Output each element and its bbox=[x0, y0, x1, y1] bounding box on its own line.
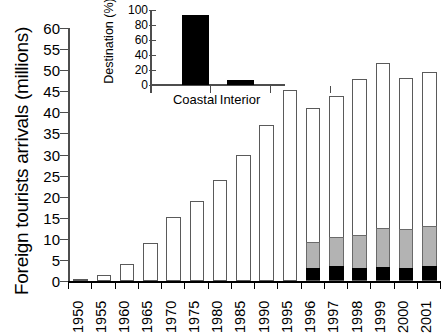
y-tick-label: 60 bbox=[43, 20, 60, 37]
x-tick-label: 2001 bbox=[418, 301, 434, 333]
y-tick bbox=[60, 218, 68, 219]
y-tick bbox=[60, 49, 68, 50]
bar-segment-bottom bbox=[329, 266, 343, 280]
y-tick-label: 55 bbox=[43, 41, 60, 58]
x-tick-label: 1950 bbox=[70, 301, 86, 333]
x-tick-label: 1995 bbox=[279, 301, 295, 333]
inset-x-tick-label: Interior bbox=[220, 92, 260, 107]
bar-2001 bbox=[422, 72, 436, 281]
bar-1996 bbox=[306, 108, 320, 281]
inset-chart: Destination (%) 020406080100 CoastalInte… bbox=[104, 6, 286, 98]
y-tick bbox=[60, 155, 68, 156]
y-tick bbox=[60, 197, 68, 198]
inset-y-axis-tick-labels: 020406080100 bbox=[104, 10, 148, 85]
inset-x-tick-label: Coastal bbox=[173, 92, 217, 107]
y-tick bbox=[60, 133, 68, 134]
inset-y-tick-label: 40 bbox=[135, 48, 148, 62]
inset-y-tick-label: 0 bbox=[141, 78, 148, 92]
inset-bar-interior bbox=[227, 80, 254, 85]
inset-y-tick-label: 80 bbox=[135, 18, 148, 32]
bar-segment-bottom bbox=[399, 268, 413, 280]
y-tick-label: 30 bbox=[43, 146, 60, 163]
inset-y-tick-label: 20 bbox=[135, 63, 148, 77]
x-tick-label: 1975 bbox=[186, 301, 202, 333]
y-axis-tick-labels: 051015202530354045505560 bbox=[8, 28, 60, 282]
y-tick-label: 5 bbox=[52, 251, 60, 268]
figure-root: Foreign tourists arrivals (millions) 051… bbox=[0, 0, 448, 335]
x-tick-label: 1998 bbox=[349, 301, 365, 333]
bar-1970 bbox=[166, 217, 180, 282]
bar-1998 bbox=[352, 79, 366, 281]
inset-x-axis-tick-labels: CoastalInterior bbox=[150, 92, 285, 110]
x-tick-label: 1970 bbox=[163, 301, 179, 333]
y-tick bbox=[60, 176, 68, 177]
x-tick-label: 1996 bbox=[302, 301, 318, 333]
x-tick-label: 1985 bbox=[232, 301, 248, 333]
y-tick bbox=[60, 281, 68, 282]
x-tick-label: 1965 bbox=[139, 301, 155, 333]
y-tick-label: 50 bbox=[43, 62, 60, 79]
bar-1990 bbox=[259, 125, 273, 281]
inset-x-tick bbox=[330, 86, 332, 93]
y-tick-label: 0 bbox=[52, 273, 60, 290]
y-tick-label: 45 bbox=[43, 83, 60, 100]
bar-1985 bbox=[236, 155, 250, 282]
y-tick-label: 25 bbox=[43, 167, 60, 184]
bar-segment-bottom bbox=[352, 268, 366, 280]
y-tick bbox=[60, 239, 68, 240]
bar-1965 bbox=[143, 243, 157, 281]
y-tick-label: 10 bbox=[43, 230, 60, 247]
y-tick-label: 15 bbox=[43, 209, 60, 226]
y-tick bbox=[60, 28, 68, 29]
x-tick-label: 2000 bbox=[395, 301, 411, 333]
x-tick-label: 1990 bbox=[256, 301, 272, 333]
bar-1999 bbox=[376, 63, 390, 281]
bar-1950 bbox=[73, 279, 87, 281]
inset-bar-coastal bbox=[182, 15, 209, 85]
bar-1980 bbox=[213, 180, 227, 281]
x-tick-label: 1980 bbox=[209, 301, 225, 333]
bar-1995 bbox=[283, 90, 297, 281]
y-tick-label: 20 bbox=[43, 188, 60, 205]
y-tick bbox=[60, 91, 68, 92]
x-tick-label: 1997 bbox=[325, 301, 341, 333]
bar-1975 bbox=[190, 201, 204, 281]
inset-bars bbox=[150, 10, 285, 85]
y-tick bbox=[60, 260, 68, 261]
x-tick-label: 1999 bbox=[372, 301, 388, 333]
inset-y-tick-label: 100 bbox=[128, 3, 148, 17]
x-tick-label: 1955 bbox=[93, 301, 109, 333]
bar-1997 bbox=[329, 96, 343, 281]
inset-y-tick-label: 60 bbox=[135, 33, 148, 47]
bar-2000 bbox=[399, 78, 413, 281]
y-tick bbox=[60, 112, 68, 113]
bar-segment-bottom bbox=[306, 268, 320, 280]
x-axis-tick-labels: 1950195519601965197019751980198519901995… bbox=[68, 289, 441, 335]
x-tick-label: 1960 bbox=[116, 301, 132, 333]
bar-1955 bbox=[97, 275, 111, 281]
y-tick-label: 40 bbox=[43, 104, 60, 121]
y-tick bbox=[60, 70, 68, 71]
bar-1960 bbox=[120, 264, 134, 281]
y-tick-label: 35 bbox=[43, 125, 60, 142]
bar-segment-bottom bbox=[376, 267, 390, 280]
bar-segment-bottom bbox=[422, 266, 436, 280]
